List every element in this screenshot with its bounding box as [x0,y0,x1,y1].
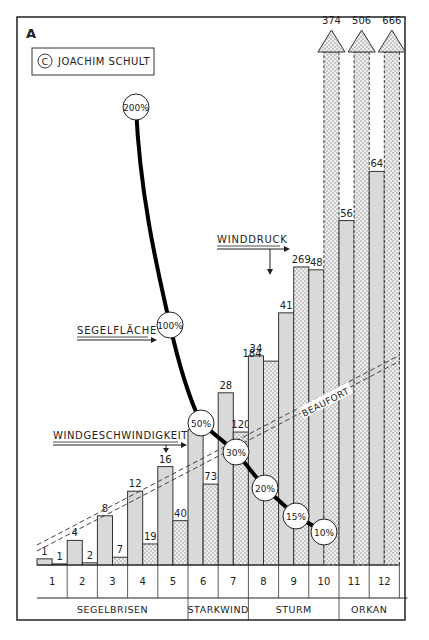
overflow-arrow-icon [318,30,345,52]
segelflaeche-label: SEGELFLÄCHE [77,324,157,336]
winddruck-drop-arrow-icon [267,269,273,275]
pressure-bar [143,544,158,565]
pressure-bar-label: 666 [382,15,401,26]
tick-label: 10 [318,576,331,587]
sail-area-marker-label: 10% [314,528,334,538]
sail-area-marker-label: 30% [226,448,246,458]
tick-label: 9 [291,576,297,587]
pressure-bar-label: 374 [322,15,341,26]
tick-label: 6 [200,576,206,587]
sail-area-marker-label: 200% [123,103,149,113]
copyright-author: JOACHIM SCHULT [57,56,150,67]
tick-label: 1 [49,576,55,587]
pressure-bar-label: 269 [292,254,311,265]
speed-bar-label: 64 [370,158,383,169]
speed-bar-label: 56 [340,208,353,219]
tick-label: 3 [109,576,115,587]
speed-bar [97,516,112,565]
pressure-bar [173,521,188,565]
group-label: ORKAN [351,604,387,615]
speed-bar [369,171,384,565]
pressure-bar-label: 7 [117,544,123,555]
speed-bar [37,559,52,565]
x-axis-layer: 123456789101112SEGELBRISENSTARKWINDSTURM… [37,565,407,620]
speed-bar-label: 48 [310,257,323,268]
speed-bar-label: 8 [102,503,108,514]
pressure-bar-overflow [324,52,339,565]
speed-bar-label: 41 [280,300,293,311]
sail-area-marker-label: 20% [255,484,275,494]
windgeschwindigkeit-drop-arrow-icon [163,448,169,453]
speed-bar [158,467,173,565]
group-label: SEGELBRISEN [77,604,148,615]
bars-layer: 1142871219164022732812034184412694837456… [37,15,405,565]
pressure-bar [203,484,218,565]
tick-label: 2 [79,576,85,587]
pressure-bar-label: 73 [204,471,217,482]
pressure-bar-overflow [354,52,369,565]
pressure-bar-label: 2 [87,550,93,561]
segelflaeche-arrowhead-icon [151,337,157,343]
pressure-bar-label: 120 [231,419,250,430]
pressure-bar [264,361,279,565]
sail-area-marker-label: 100% [157,321,183,331]
pressure-bar-label: 1 [56,551,62,562]
panel-letter: A [26,26,36,41]
copyright-symbol: C [42,57,48,67]
speed-bar [67,540,82,565]
pressure-bar-label: 40 [174,508,187,519]
overflow-arrow-icon [348,30,375,52]
copyright-box: C JOACHIM SCHULT [32,48,154,75]
tick-label: 5 [170,576,176,587]
group-label: STARKWIND [188,604,249,615]
tick-label: 7 [230,576,236,587]
speed-bar-label: 16 [159,454,172,465]
pressure-bar-label: 184 [242,348,261,359]
winddruck-label: WINDDRUCK [217,234,288,245]
speed-bar [188,430,203,565]
sail-area-marker-label: 15% [286,512,306,522]
winddruck-arrowhead-icon [284,246,290,252]
speed-bar-label: 12 [129,478,142,489]
speed-bar-label: 4 [72,527,78,538]
tick-label: 12 [378,576,391,587]
pressure-bar-label: 19 [144,531,157,542]
tick-label: 11 [348,576,361,587]
windgeschwindigkeit-label: WINDGESCHWINDIGKEIT [53,430,188,441]
speed-bar-label: 28 [219,380,232,391]
overflow-arrow-icon [378,30,405,52]
tick-label: 4 [140,576,146,587]
tick-label: 8 [260,576,266,587]
windgeschwindigkeit-arrowhead-icon [181,442,187,448]
sail-area-marker-label: 50% [191,419,211,429]
wind-chart: A C JOACHIM SCHULT 114287121916402273281… [0,0,429,640]
speed-bar [248,356,263,565]
pressure-bar-overflow [384,52,399,565]
pressure-bar-label: 506 [352,15,371,26]
pressure-bar [113,557,128,565]
group-label: STURM [276,604,312,615]
